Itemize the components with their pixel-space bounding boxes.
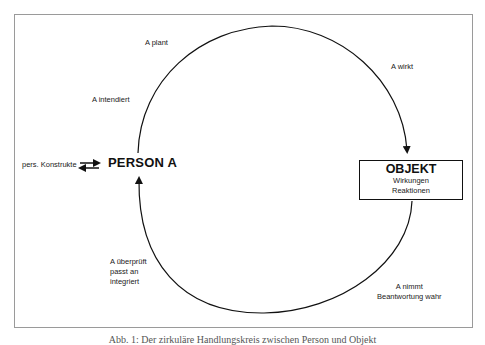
arc-person-to-object bbox=[138, 26, 407, 153]
label-perceives-line2: Beantwortung wahr bbox=[377, 292, 442, 302]
object-line-effects: Wirkungen bbox=[360, 176, 462, 186]
node-person-a: PERSON A bbox=[108, 155, 177, 170]
label-checks-line3: integriert bbox=[110, 277, 147, 287]
label-personal-constructs: pers. Konstrukte bbox=[22, 160, 77, 170]
label-perceives: A nimmt Beantwortung wahr bbox=[377, 282, 442, 302]
label-checks-line2: passt an bbox=[110, 267, 147, 277]
label-acts: A wirkt bbox=[391, 62, 413, 72]
object-line-reactions: Reaktionen bbox=[360, 186, 462, 196]
figure-caption: Abb. 1: Der zirkuläre Handlungskreis zwi… bbox=[0, 334, 485, 345]
label-intends: A intendiert bbox=[92, 95, 130, 105]
object-title: OBJEKT bbox=[360, 163, 462, 176]
label-perceives-line1: A nimmt bbox=[377, 282, 442, 292]
label-checks: A überprüft passt an integriert bbox=[110, 257, 147, 287]
label-checks-line1: A überprüft bbox=[110, 257, 147, 267]
node-object: OBJEKT Wirkungen Reaktionen bbox=[359, 160, 463, 200]
label-plans: A plant bbox=[145, 38, 168, 48]
